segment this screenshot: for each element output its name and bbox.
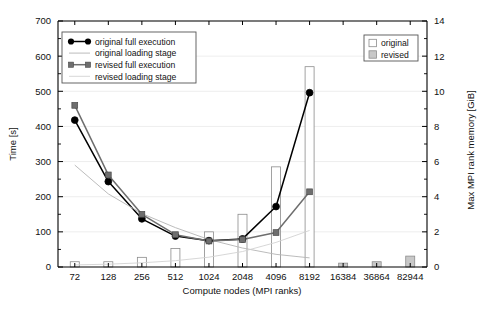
ytick-label-right: 6 <box>434 156 439 167</box>
point-revised-full-execution-72 <box>72 102 78 108</box>
xtick-label-8192: 8192 <box>299 271 320 282</box>
ytick-label-right: 8 <box>434 121 439 132</box>
chart-figure: 0100200300400500600700024681012147212825… <box>0 0 486 317</box>
bar-original-8192 <box>305 67 314 267</box>
xtick-label-1024: 1024 <box>198 271 219 282</box>
legend-label-line-3: revised loading stage <box>95 72 176 82</box>
xtick-label-128: 128 <box>100 271 116 282</box>
y-axis-title-left: Time [s] <box>7 127 18 160</box>
legend-label-bar-0: original <box>381 38 409 48</box>
legend-label-bar-1: revised <box>381 50 409 60</box>
xtick-label-256: 256 <box>134 271 150 282</box>
ytick-label-left: 200 <box>35 191 51 202</box>
ytick-label-right: 4 <box>434 191 439 202</box>
point-revised-full-execution-4096 <box>273 230 279 236</box>
xtick-label-2048: 2048 <box>232 271 253 282</box>
legend-swatch-bar-0 <box>369 39 376 46</box>
y-axis-title-right: Max MPI rank memory [GiB] <box>465 90 476 209</box>
ytick-label-right: 12 <box>434 51 445 62</box>
legend-marker2-0 <box>85 38 91 44</box>
point-revised-full-execution-128 <box>105 172 111 178</box>
legend-marker-2 <box>68 62 73 67</box>
ytick-label-left: 400 <box>35 121 51 132</box>
ytick-label-left: 600 <box>35 51 51 62</box>
ytick-label-left: 300 <box>35 156 51 167</box>
chart-canvas: 0100200300400500600700024681012147212825… <box>0 0 486 317</box>
legend-label-line-1: original loading stage <box>95 48 176 58</box>
point-original-full-execution-128 <box>105 178 112 185</box>
ytick-label-right: 10 <box>434 86 445 97</box>
legend-marker2-2 <box>85 62 90 67</box>
point-revised-full-execution-8192 <box>307 189 313 195</box>
xtick-label-82944: 82944 <box>397 271 423 282</box>
legend-label-line-0: original full execution <box>95 37 175 47</box>
legend-swatch-bar-1 <box>369 51 376 58</box>
point-original-full-execution-8192 <box>306 89 313 96</box>
point-revised-full-execution-2048 <box>240 237 246 243</box>
legend-marker-0 <box>68 38 74 44</box>
x-axis-title: Compute nodes (MPI ranks) <box>183 285 302 296</box>
point-original-full-execution-4096 <box>273 203 280 210</box>
xtick-label-16384: 16384 <box>330 271 356 282</box>
ytick-label-left: 0 <box>46 261 51 272</box>
ytick-label-right: 14 <box>434 15 445 26</box>
xtick-label-4096: 4096 <box>265 271 286 282</box>
ytick-label-left: 500 <box>35 86 51 97</box>
xtick-label-72: 72 <box>69 271 80 282</box>
point-revised-full-execution-256 <box>139 211 145 217</box>
ytick-label-right: 2 <box>434 226 439 237</box>
ytick-label-left: 700 <box>35 15 51 26</box>
point-original-full-execution-72 <box>71 117 78 124</box>
xtick-label-36864: 36864 <box>363 271 389 282</box>
bar-original-4096 <box>272 167 281 267</box>
point-revised-full-execution-512 <box>173 232 179 238</box>
legend-label-line-2: revised full execution <box>95 60 175 70</box>
xtick-label-512: 512 <box>167 271 183 282</box>
point-revised-full-execution-1024 <box>206 238 212 244</box>
ytick-label-left: 100 <box>35 226 51 237</box>
ytick-label-right: 0 <box>434 261 439 272</box>
